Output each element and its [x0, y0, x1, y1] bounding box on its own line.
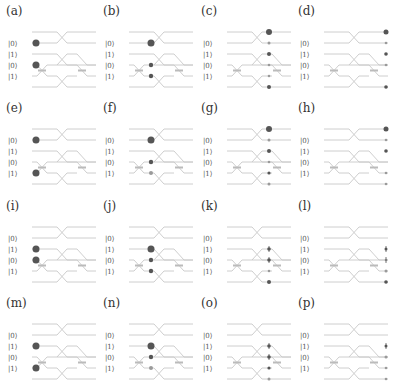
- input-ket-label: |0⟩: [300, 257, 310, 265]
- photon-dot-icon: [148, 137, 155, 144]
- photon-dot-icon: [385, 356, 388, 359]
- input-ket-label: |0⟩: [105, 354, 115, 362]
- photon-dot-icon: [149, 269, 153, 273]
- panel-n: (n) |0⟩|1⟩|0⟩|1⟩: [97, 292, 195, 390]
- photon-dot-icon: [267, 366, 270, 369]
- input-ket-label: |0⟩: [203, 137, 213, 145]
- circuit-diagram: |0⟩|1⟩|0⟩|1⟩: [0, 195, 98, 293]
- photon-dot-icon: [267, 52, 271, 56]
- figure-grid: (a) |0⟩|1⟩|0⟩|1⟩ (b) |0⟩|1⟩|0⟩|1⟩ (c) |0…: [0, 0, 394, 392]
- photon-dot-icon: [267, 171, 270, 174]
- beam-splitter-icon: [273, 70, 281, 72]
- circuit-diagram: |0⟩|1⟩|0⟩|1⟩: [97, 97, 195, 195]
- input-ket-label: |0⟩: [8, 257, 18, 265]
- input-ket-label: |1⟩: [8, 170, 18, 178]
- beam-splitter-icon: [135, 265, 143, 267]
- circuit-diagram: |0⟩|1⟩|0⟩|1⟩: [292, 0, 390, 98]
- photon-dot-icon: [149, 258, 153, 262]
- beam-splitter-icon: [175, 70, 183, 72]
- input-ket-label: |1⟩: [8, 73, 18, 81]
- beam-splitter-icon: [330, 70, 338, 72]
- input-ket-label: |0⟩: [8, 159, 18, 167]
- circuit-diagram: |0⟩|1⟩|0⟩|1⟩: [0, 97, 98, 195]
- beam-splitter-icon: [370, 362, 378, 364]
- photon-dot-icon: [268, 183, 271, 186]
- photon-dot-icon: [33, 343, 40, 350]
- input-ket-label: |0⟩: [8, 354, 18, 362]
- circuit-diagram: |0⟩|1⟩|0⟩|1⟩: [195, 195, 293, 293]
- photon-dot-icon: [266, 29, 272, 35]
- photon-dot-icon: [149, 74, 153, 78]
- input-ket-label: |0⟩: [8, 137, 18, 145]
- input-ket-label: |0⟩: [300, 235, 310, 243]
- input-ket-label: |1⟩: [300, 246, 310, 254]
- photon-dot-icon: [384, 280, 388, 284]
- input-ket-label: |0⟩: [203, 354, 213, 362]
- input-ket-label: |1⟩: [105, 246, 115, 254]
- photon-dot-icon: [268, 64, 271, 67]
- panel-p: (p) |0⟩|1⟩|0⟩|1⟩: [292, 292, 390, 390]
- input-ket-label: |0⟩: [300, 40, 310, 48]
- input-ket-label: |1⟩: [105, 268, 115, 276]
- circuit-diagram: |0⟩|1⟩|0⟩|1⟩: [0, 0, 98, 98]
- photon-dot-icon: [385, 64, 388, 67]
- panel-j: (j) |0⟩|1⟩|0⟩|1⟩: [97, 195, 195, 293]
- input-ket-label: |1⟩: [300, 170, 310, 178]
- beam-splitter-icon: [370, 265, 378, 267]
- input-ket-label: |0⟩: [105, 257, 115, 265]
- photon-dot-icon: [384, 52, 388, 56]
- beam-splitter-icon: [175, 167, 183, 169]
- input-ket-label: |1⟩: [300, 268, 310, 276]
- input-ket-label: |1⟩: [8, 246, 18, 254]
- beam-splitter-icon: [370, 70, 378, 72]
- photon-dot-icon: [33, 170, 40, 177]
- input-ket-label: |0⟩: [300, 332, 310, 340]
- circuit-diagram: |0⟩|1⟩|0⟩|1⟩: [195, 292, 293, 390]
- beam-splitter-icon: [135, 70, 143, 72]
- input-ket-label: |0⟩: [203, 62, 213, 70]
- photon-dot-icon: [268, 139, 271, 142]
- input-ket-label: |0⟩: [105, 235, 115, 243]
- input-ket-label: |0⟩: [8, 62, 18, 70]
- input-ket-label: |1⟩: [203, 268, 213, 276]
- input-ket-label: |1⟩: [203, 148, 213, 156]
- photon-dot-icon: [33, 137, 40, 144]
- beam-splitter-icon: [78, 265, 86, 267]
- beam-splitter-icon: [78, 70, 86, 72]
- input-ket-label: |1⟩: [8, 268, 18, 276]
- beam-splitter-icon: [330, 265, 338, 267]
- photon-dot-icon: [385, 139, 388, 142]
- beam-splitter-icon: [273, 167, 281, 169]
- input-ket-label: |1⟩: [105, 51, 115, 59]
- circuit-diagram: |0⟩|1⟩|0⟩|1⟩: [195, 97, 293, 195]
- beam-splitter-icon: [233, 265, 241, 267]
- circuit-diagram: |0⟩|1⟩|0⟩|1⟩: [195, 0, 293, 98]
- photon-dot-icon: [385, 42, 388, 45]
- photon-dot-icon: [148, 246, 155, 253]
- input-ket-label: |1⟩: [203, 51, 213, 59]
- beam-splitter-icon: [38, 70, 46, 72]
- beam-splitter-icon: [273, 265, 281, 267]
- beam-splitter-icon: [38, 265, 46, 267]
- input-ket-label: |1⟩: [105, 343, 115, 351]
- photon-dot-icon: [385, 172, 388, 175]
- input-ket-label: |0⟩: [8, 235, 18, 243]
- input-ket-label: |0⟩: [203, 235, 213, 243]
- input-ket-label: |1⟩: [203, 365, 213, 373]
- photon-dot-icon: [385, 378, 388, 381]
- beam-splitter-icon: [78, 362, 86, 364]
- photon-dot-icon: [33, 62, 40, 69]
- panel-f: (f) |0⟩|1⟩|0⟩|1⟩: [97, 97, 195, 195]
- photon-dot-icon: [267, 149, 271, 153]
- input-ket-label: |0⟩: [8, 40, 18, 48]
- panel-k: (k) |0⟩|1⟩|0⟩|1⟩: [195, 195, 293, 293]
- beam-splitter-icon: [38, 167, 46, 169]
- beam-splitter-icon: [78, 167, 86, 169]
- photon-dot-icon: [149, 63, 153, 67]
- photon-dot-icon: [385, 367, 388, 370]
- panel-g: (g) |0⟩|1⟩|0⟩|1⟩: [195, 97, 293, 195]
- photon-dot-icon: [384, 85, 388, 89]
- input-ket-label: |1⟩: [300, 51, 310, 59]
- input-ket-label: |0⟩: [203, 159, 213, 167]
- beam-splitter-icon: [135, 362, 143, 364]
